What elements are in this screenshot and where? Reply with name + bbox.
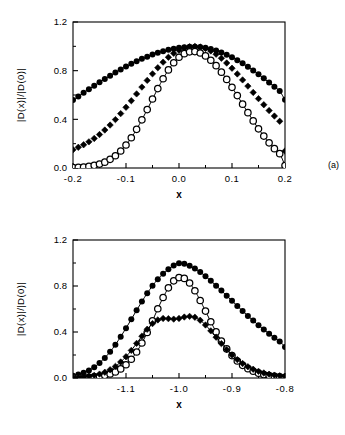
- marker-filled-circle: [261, 327, 267, 333]
- x-tick-label: -0.8: [276, 383, 294, 394]
- marker-filled-circle: [250, 67, 256, 73]
- marker-open-circle: [202, 308, 208, 314]
- marker-filled-diamond: [171, 316, 177, 322]
- x-tick-label: -0.1: [117, 173, 135, 184]
- marker-open-circle: [192, 288, 198, 294]
- panel-a-plot: -0.2-0.10.00.10.20.00.40.81.2x|D(x)|/|D(…: [0, 0, 345, 215]
- panel-b-plot: -1.1-1.0-0.9-0.80.00.40.81.2x|D(x)|/|D(0…: [0, 215, 345, 435]
- marker-filled-circle: [181, 261, 187, 267]
- data-layer: [70, 43, 288, 171]
- marker-filled-circle: [112, 69, 118, 75]
- marker-filled-circle: [75, 93, 81, 99]
- y-axis-title: |D(x)|/|D(0)|: [15, 282, 26, 336]
- y-tick-label: 0.8: [54, 280, 67, 291]
- marker-open-circle: [155, 85, 161, 91]
- marker-open-circle: [112, 153, 118, 159]
- marker-filled-circle: [256, 322, 262, 328]
- marker-open-circle: [229, 84, 235, 90]
- marker-open-circle: [239, 101, 245, 107]
- marker-filled-diamond: [128, 98, 134, 104]
- marker-filled-diamond: [234, 71, 240, 77]
- y-tick-label: 1.2: [54, 16, 67, 27]
- marker-open-circle: [218, 69, 224, 75]
- marker-filled-circle: [102, 355, 108, 361]
- x-tick-label: 0.0: [172, 173, 187, 184]
- marker-open-circle: [139, 117, 145, 123]
- marker-filled-diamond: [218, 55, 224, 61]
- marker-filled-circle: [134, 58, 140, 64]
- marker-open-circle: [160, 76, 166, 82]
- marker-filled-circle: [277, 88, 283, 94]
- marker-filled-diamond: [239, 77, 245, 83]
- x-axis-title: x: [176, 189, 182, 200]
- marker-open-circle: [261, 133, 267, 139]
- marker-filled-circle: [107, 73, 113, 79]
- marker-open-circle: [165, 67, 171, 73]
- marker-filled-diamond: [277, 118, 283, 124]
- marker-filled-circle: [229, 298, 235, 304]
- marker-filled-circle: [165, 266, 171, 272]
- marker-filled-circle: [97, 79, 103, 85]
- marker-filled-diamond: [181, 314, 187, 320]
- marker-filled-diamond: [224, 60, 230, 66]
- marker-filled-circle: [150, 52, 156, 58]
- marker-open-circle: [208, 319, 214, 325]
- marker-filled-circle: [229, 54, 235, 60]
- y-tick-label: 1.2: [54, 234, 67, 245]
- marker-filled-diamond: [176, 315, 182, 321]
- x-tick-label: -1.0: [170, 383, 188, 394]
- marker-filled-circle: [97, 360, 103, 366]
- marker-filled-circle: [123, 64, 129, 70]
- marker-open-circle: [181, 275, 187, 281]
- panel-a-tag: (a): [328, 160, 339, 170]
- marker-open-circle: [250, 118, 256, 124]
- marker-filled-circle: [176, 260, 182, 266]
- x-tick-label: 0.1: [225, 173, 240, 184]
- chart-panel-b: -1.1-1.0-0.9-0.80.00.40.81.2x|D(x)|/|D(0…: [0, 215, 345, 435]
- x-tick-label: 0.2: [278, 173, 293, 184]
- marker-filled-circle: [245, 64, 251, 70]
- marker-filled-circle: [160, 48, 166, 54]
- marker-filled-circle: [128, 61, 134, 67]
- marker-filled-circle: [282, 97, 288, 103]
- marker-filled-circle: [266, 79, 272, 85]
- marker-open-circle: [245, 109, 251, 115]
- marker-filled-diamond: [282, 373, 288, 379]
- marker-filled-diamond: [186, 313, 192, 319]
- marker-open-circle: [186, 280, 192, 286]
- marker-filled-circle: [203, 273, 209, 279]
- marker-filled-circle: [187, 263, 193, 269]
- marker-filled-circle: [213, 283, 219, 289]
- marker-filled-circle: [245, 313, 251, 319]
- marker-open-circle: [171, 60, 177, 66]
- marker-filled-circle: [112, 342, 118, 348]
- marker-filled-circle: [70, 97, 76, 103]
- x-tick-label: -0.2: [64, 173, 82, 184]
- marker-filled-circle: [250, 318, 256, 324]
- marker-filled-diamond: [133, 91, 139, 97]
- marker-filled-circle: [261, 75, 267, 81]
- marker-filled-diamond: [255, 95, 261, 101]
- marker-open-circle: [118, 148, 124, 154]
- marker-filled-circle: [123, 325, 129, 331]
- marker-open-circle: [155, 306, 161, 312]
- marker-filled-diamond: [266, 107, 272, 113]
- marker-filled-circle: [155, 50, 161, 56]
- series-markers-low-broad: [70, 313, 288, 381]
- marker-filled-diamond: [96, 131, 102, 137]
- marker-open-circle: [133, 126, 139, 132]
- marker-filled-circle: [224, 293, 230, 299]
- y-tick-label: 0.4: [54, 326, 67, 337]
- marker-open-circle: [282, 162, 288, 168]
- marker-filled-circle: [240, 308, 246, 314]
- x-axis-title: x: [176, 399, 182, 410]
- marker-open-circle: [208, 57, 214, 63]
- marker-filled-diamond: [112, 116, 118, 122]
- marker-filled-circle: [171, 263, 177, 269]
- chart-panel-a: -0.2-0.10.00.10.20.00.40.81.2x|D(x)|/|D(…: [0, 0, 345, 215]
- y-tick-label: 0.8: [54, 65, 67, 76]
- marker-filled-diamond: [160, 59, 166, 65]
- marker-open-circle: [213, 62, 219, 68]
- marker-filled-circle: [144, 54, 150, 60]
- x-tick-label: -1.1: [117, 383, 135, 394]
